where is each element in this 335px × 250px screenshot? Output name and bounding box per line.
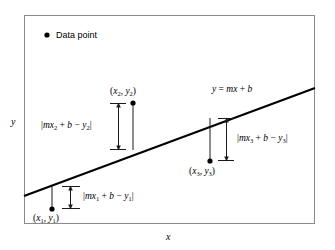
line-equation-label: y = mx + b [212,85,252,95]
r3-y-sub: 3 [282,137,285,144]
y-axis-label: y [11,117,15,127]
r1-y-sub: 1 [128,195,131,202]
p1-x-sub: 1 [40,217,43,224]
r2-plus: + [60,120,65,130]
residual-label-point-3: |mx3 + b − y3| [237,134,288,144]
r1-minus: − [116,191,121,201]
data-point-marker-2 [130,100,135,105]
p1-close-paren: ) [56,213,59,223]
equation-x: x [233,84,237,94]
p3-y-sub: 3 [209,170,212,177]
p3-y: y [204,166,208,176]
r3-minus: − [270,133,275,143]
equation-equals: = [219,84,224,94]
p1-y: y [48,213,52,223]
legend-marker-icon [44,32,49,37]
residual-label-point-2: |mx2 + b − y2| [41,121,92,131]
r1-plus: + [102,191,107,201]
r2-m: m [43,120,50,130]
residual-label-point-1: |mx1 + b − y1| [83,192,134,202]
r1-m: m [85,191,92,201]
equation-plus: + [240,84,245,94]
r2-x-sub: 2 [54,124,57,131]
r3-plus: + [256,133,261,143]
coordinate-label-point-3: (x3, y3) [189,167,215,177]
equation-b: b [248,84,253,94]
x-axis-label: x [166,232,170,242]
p3-close-paren: ) [212,166,215,176]
r3-m: m [239,133,246,143]
r1-x-sub: 1 [96,195,99,202]
r3-b: b [263,133,268,143]
p3-x-sub: 3 [196,170,199,177]
data-point-marker-1 [49,206,54,211]
p2-y: y [125,86,129,96]
p2-x-sub: 2 [117,90,120,97]
regression-residuals-figure: Data point y = mx + b (x1, y1) |mx1 + b … [0,0,335,250]
legend-label-data-point: Data point [56,31,97,40]
coordinate-label-point-2: (x2, y2) [110,87,136,97]
data-point-marker-3 [207,158,212,163]
r2-b: b [67,120,72,130]
coordinate-label-point-1: (x1, y1) [33,214,59,224]
r1-b: b [109,191,114,201]
p1-y-sub: 1 [53,217,56,224]
r2-y-sub: 2 [86,124,89,131]
equation-y: y [212,84,216,94]
p2-close-paren: ) [133,86,136,96]
r2-minus: − [74,120,79,130]
r3-x-sub: 3 [250,137,253,144]
p2-y-sub: 2 [130,90,133,97]
